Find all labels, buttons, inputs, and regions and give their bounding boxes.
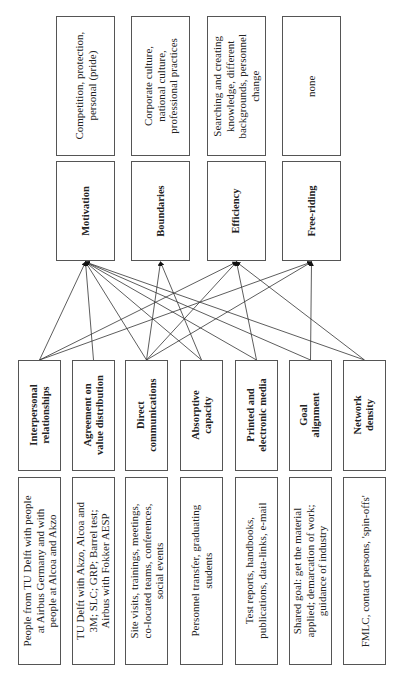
edge	[237, 262, 257, 360]
factor-1: Agreement on value distribution	[72, 360, 115, 471]
factor-description-5: Shared goal: get the material applied; d…	[289, 477, 332, 665]
edge	[86, 262, 365, 360]
outcome-2: Efficiency	[207, 161, 266, 261]
factor-description-1: TU Delft with Akzo, Alcoa and 3M; SLC; G…	[72, 477, 115, 665]
outcome-1: Boundaries	[131, 161, 190, 261]
factor-5: Goal alignment	[289, 360, 332, 471]
edge	[147, 262, 161, 360]
factor-description-6: FMLC, contact persons, 'spin-offs'	[343, 477, 386, 665]
edge	[147, 262, 237, 360]
outcome-description-3: none	[282, 16, 341, 156]
factor-2: Direct communications	[125, 360, 168, 471]
edge	[237, 262, 365, 360]
edge	[311, 262, 312, 360]
outcome-description-1: Corporate culture, national culture, pro…	[131, 16, 190, 156]
factor-description-4: Test reports, handbooks, publications, d…	[235, 477, 278, 665]
factor-description-3: Personnel transfer, graduating students	[180, 477, 223, 665]
outcome-3: Free-riding	[282, 161, 341, 261]
factor-description-0: People from TU Delft with people at Airb…	[18, 477, 61, 665]
edge	[86, 262, 311, 360]
edge	[86, 262, 94, 360]
edge	[40, 262, 237, 360]
edge	[40, 262, 312, 360]
edge	[40, 262, 86, 360]
factor-0: Interpersonal relationships	[18, 360, 61, 471]
outcome-description-2: Searching and creating knowledge, differ…	[207, 16, 266, 156]
outcome-0: Motivation	[56, 161, 115, 261]
factor-3: Absorptive capacity	[180, 360, 223, 471]
edge	[161, 262, 202, 360]
factor-4: Printed and electronic media	[235, 360, 278, 471]
outcome-description-0: Competition, protection, personal (pride…	[56, 16, 115, 156]
factor-6: Network density	[343, 360, 386, 471]
edge	[86, 262, 202, 360]
factor-description-2: Site visits, trainings, meetings, co-loc…	[125, 477, 168, 665]
